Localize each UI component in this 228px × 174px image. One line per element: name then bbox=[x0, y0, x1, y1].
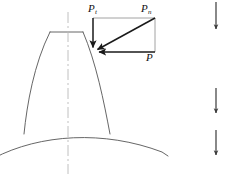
tooth-left-flank bbox=[24, 32, 50, 134]
gear-tooth-outline bbox=[24, 32, 110, 134]
figure-canvas bbox=[0, 0, 228, 174]
normal-force-label: Pn bbox=[141, 3, 151, 14]
root-circle-arc bbox=[0, 138, 168, 158]
tangential-force-label: Pt bbox=[88, 3, 97, 14]
normal-force-label-subscript: n bbox=[148, 8, 152, 16]
tooth-right-flank bbox=[83, 32, 110, 134]
normal-force-vector bbox=[98, 18, 156, 50]
radial-force-label: P bbox=[146, 52, 153, 63]
gear-tooth-force-figure: Pt Pn P bbox=[0, 0, 228, 174]
radial-force-label-base: P bbox=[146, 51, 153, 63]
force-vectors bbox=[93, 18, 155, 52]
normal-force-label-base: P bbox=[141, 2, 148, 14]
tangential-force-label-subscript: t bbox=[95, 8, 97, 16]
tangential-force-label-base: P bbox=[88, 2, 95, 14]
